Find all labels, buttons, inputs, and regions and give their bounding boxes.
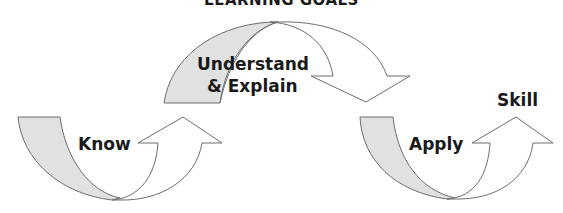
label-apply: Apply [409,134,463,154]
know-arrow-body [112,117,222,200]
label-understand: Understand [197,54,309,74]
know-arrow-tail-shade [18,117,120,200]
know-arrow [18,117,222,200]
apply-arrow [360,117,553,199]
label-explain: & Explain [207,76,298,96]
label-skill: Skill [497,90,538,110]
apply-arrow-tail-shade [360,117,455,199]
apply-arrow-body [447,117,553,199]
label-know: Know [78,134,131,154]
learning-goals-diagram [0,0,563,213]
